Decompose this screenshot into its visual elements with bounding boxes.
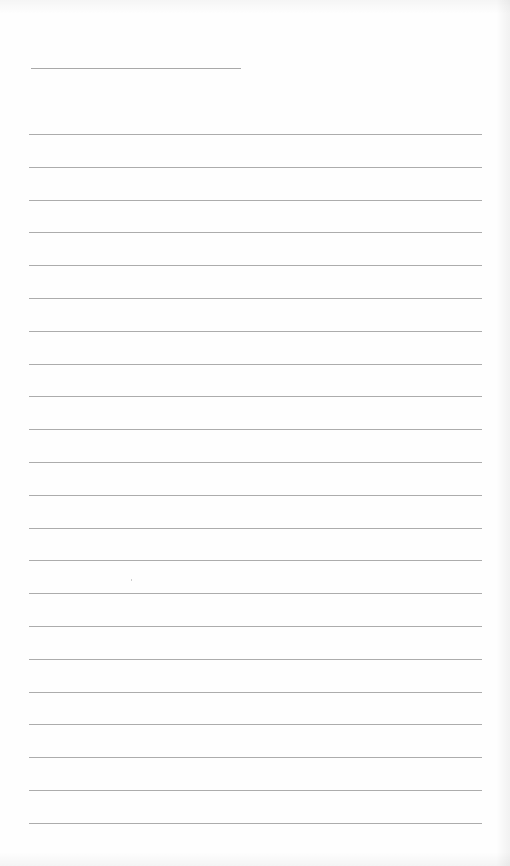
ruled-line — [29, 429, 482, 430]
ruled-line — [29, 462, 482, 463]
lined-paper-page — [0, 0, 510, 866]
paper-speck — [131, 579, 132, 581]
ruled-line — [29, 528, 482, 529]
ruled-line — [29, 134, 482, 135]
ruled-line — [29, 331, 482, 332]
ruled-line — [29, 560, 482, 561]
ruled-line — [29, 757, 482, 758]
ruled-line — [29, 200, 482, 201]
right-edge-shadow — [496, 0, 510, 866]
ruled-line — [29, 495, 482, 496]
title-line — [31, 68, 241, 69]
ruled-line — [29, 790, 482, 791]
bottom-edge-shadow — [0, 852, 510, 866]
ruled-line — [29, 364, 482, 365]
ruled-line — [29, 265, 482, 266]
ruled-line — [29, 659, 482, 660]
ruled-line — [29, 692, 482, 693]
ruled-line — [29, 626, 482, 627]
ruled-line — [29, 724, 482, 725]
ruled-line — [29, 593, 482, 594]
top-edge-shadow — [0, 0, 510, 14]
ruled-line — [29, 167, 482, 168]
ruled-line — [29, 298, 482, 299]
ruled-line — [29, 823, 482, 824]
ruled-line — [29, 232, 482, 233]
ruled-line — [29, 396, 482, 397]
